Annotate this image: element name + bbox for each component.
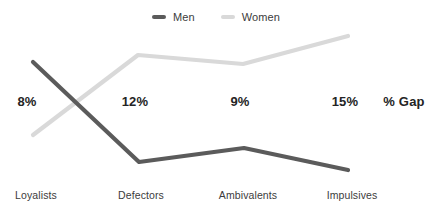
line-chart: Men Women 8%12%9%15%% Gap LoyalistsDefec… (0, 0, 432, 212)
category-label-2: Ambivalents (219, 189, 277, 201)
category-label-3: Impulsives (327, 189, 378, 201)
category-label-0: Loyalists (15, 189, 57, 201)
category-label-1: Defectors (118, 189, 164, 201)
category-axis: LoyalistsDefectorsAmbivalentsImpulsives (0, 0, 432, 212)
